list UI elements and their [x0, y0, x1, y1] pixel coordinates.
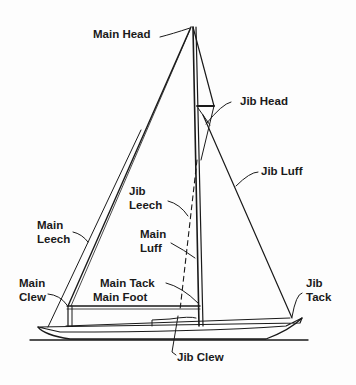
label-jib-luff: Jib Luff: [261, 164, 303, 178]
hull-top: [38, 318, 302, 332]
label-jib-tack: Jib Tack: [306, 276, 331, 304]
label-main-luff: Main Luff: [140, 227, 166, 255]
leader-main-head: [160, 28, 190, 37]
sailboat-drawing: [0, 0, 356, 385]
leader-jib-luff: [236, 172, 258, 186]
leader-jib-tack: [292, 293, 302, 317]
label-main-leech: Main Leech: [37, 218, 70, 246]
leader-jib-leech: [168, 201, 188, 216]
label-main-clew: Main Clew: [19, 276, 46, 304]
leader-main-leech: [73, 232, 88, 242]
jib-leech-line: [180, 160, 197, 310]
leader-main-tack: [166, 283, 198, 303]
jib-luff-line: [203, 115, 292, 318]
label-main-tack: Main Tack: [100, 276, 155, 290]
mast-edge: [196, 27, 203, 326]
main-leech-line: [68, 27, 191, 306]
mast: [193, 27, 199, 326]
label-main-foot: Main Foot: [93, 290, 147, 304]
leader-main-luff: [171, 243, 195, 258]
leader-main-clew: [48, 294, 67, 305]
label-jib-clew: Jib Clew: [177, 350, 224, 364]
label-main-head: Main Head: [93, 27, 151, 41]
label-jib-head: Jib Head: [240, 94, 288, 108]
label-jib-leech: Jib Leech: [129, 184, 162, 212]
sailboat-diagram: Main Head Jib Head Jib Luff Jib Leech Ma…: [0, 0, 356, 385]
